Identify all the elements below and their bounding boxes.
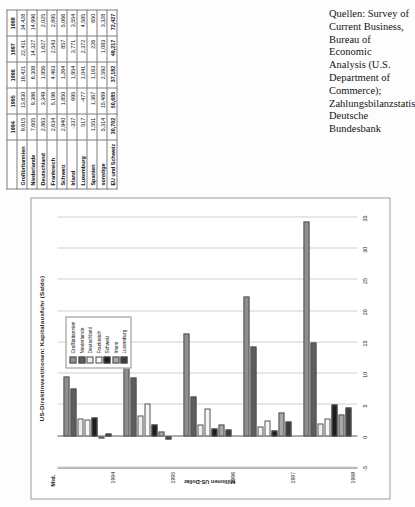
table-cell: 16,421 (17, 62, 27, 88)
table-row-header: Luxemburg (77, 140, 87, 189)
table-cell: 2,025 (37, 10, 47, 36)
chart-legend: GroßbritannienNiederlandeDeutschlandFran… (65, 316, 131, 368)
chart-y-tick-label: 35 (361, 215, 367, 221)
legend-swatch-icon (95, 356, 102, 363)
legend-swatch-icon (86, 356, 93, 363)
table-cell: 3,554 (67, 10, 77, 36)
chart-bar (130, 377, 136, 436)
table-cell: 22,411 (17, 36, 27, 62)
legend-item: Frankreich (95, 321, 102, 363)
chart-y-tick-label: 10 (361, 371, 367, 377)
table-cell: 2,634 (47, 114, 57, 140)
chart-bar-group: 1996 (177, 217, 237, 467)
table-cell: 2,863 (37, 114, 47, 140)
chart-bar (91, 417, 97, 435)
data-table: 19941995199619971998 Großbritannien9,615… (6, 9, 117, 189)
table-row-header: Frankreich (47, 140, 57, 189)
table-row-header: EU und Schweiz (107, 140, 117, 189)
table-column-header: 1995 (7, 88, 17, 114)
chart-bar (144, 403, 150, 435)
chart-x-tick-label: 1997 (289, 471, 295, 483)
table-row-header: Großbritannien (17, 140, 27, 189)
chart-bar (264, 420, 270, 436)
table-cell: 9,386 (27, 88, 37, 114)
table-header-row: 19941995199619971998 (7, 10, 17, 189)
table-cell: 2,543 (47, 36, 57, 62)
chart-y-tick-label: 25 (361, 278, 367, 284)
chart-bar (257, 426, 263, 436)
table-cell: 4,585 (77, 10, 87, 36)
table-row-header: Schweiz (57, 140, 67, 189)
table-cell: 695 (67, 88, 77, 114)
table-row-header: Irland (67, 140, 77, 189)
legend-swatch-icon (69, 356, 76, 363)
table-cell: 1,551 (87, 114, 97, 140)
table-row-header: Deutschland (37, 140, 47, 189)
table-cell: 13,830 (17, 88, 27, 114)
chart-bar (98, 436, 104, 438)
table-cell: 5,314 (97, 114, 107, 140)
table-cell: 1,083 (97, 36, 107, 62)
table-cell: 9,615 (17, 114, 27, 140)
table-cell: 72,427 (107, 10, 117, 36)
table-cell: 49,217 (107, 36, 117, 62)
legend-item: Großbritannien (69, 321, 76, 363)
chart-bar (278, 412, 284, 436)
chart-bar (151, 424, 157, 436)
table-cell: 1,954 (67, 62, 77, 88)
legend-item: Schweiz (103, 321, 110, 363)
table-corner-cell (7, 140, 17, 189)
chart-bar-group: 1997 (237, 217, 297, 467)
table-cell: 1,264 (57, 62, 67, 88)
chart-bar (165, 436, 171, 439)
table-cell: 4,463 (47, 62, 57, 88)
chart-x-tick-label: 1998 (349, 471, 355, 483)
source-note: Quellen: Survey of Current Business, Bur… (329, 8, 409, 136)
chart-y-tick-label: 30 (361, 246, 367, 252)
chart-y-tick-label: 20 (361, 309, 367, 315)
table-cell: 14,327 (27, 36, 37, 62)
legend-label: Irland (113, 341, 118, 353)
chart-y-tick-labels: 35302520151050-5 (359, 218, 375, 468)
table-cell: 2,940 (57, 114, 67, 140)
table-cell: 30,702 (107, 114, 117, 140)
table-cell: 2,372 (77, 36, 87, 62)
legend-label: Deutschland (87, 326, 92, 353)
table-row: Großbritannien9,61513,83016,42122,41134,… (17, 10, 27, 189)
chart-bar (338, 414, 344, 436)
chart-bar (70, 388, 76, 436)
table-cell: 3,771 (67, 36, 77, 62)
table-cell: -337 (67, 114, 77, 140)
table-cell: 7,605 (27, 114, 37, 140)
chart-bar (285, 421, 291, 436)
table-cell: 2,895 (47, 10, 57, 36)
chart-bar (63, 376, 69, 436)
chart-bar (243, 296, 249, 436)
chart-bar (324, 418, 330, 436)
chart-bar (137, 415, 143, 436)
table-cell: 3,328 (97, 10, 107, 36)
chart-bar (250, 346, 256, 436)
table-column-header: 1994 (7, 114, 17, 140)
chart-bar (271, 430, 277, 435)
chart-y-tick-label: -5 (361, 466, 367, 471)
table-row: sonstige5,31415,4892,5921,0833,328 (97, 10, 107, 189)
table-row: Frankreich2,6345,1964,4632,5432,895 (47, 10, 57, 189)
chart-bar (183, 333, 189, 436)
table-cell: 1,956 (37, 62, 47, 88)
chart-bar (190, 396, 196, 435)
chart-bar-group: 1998 (297, 217, 357, 467)
table-cell: 6,308 (27, 62, 37, 88)
chart-x-tick-label: 1996 (229, 471, 235, 483)
legend-item: Irland (112, 321, 119, 363)
table-cell: 14,996 (27, 10, 37, 36)
table-row: Spanien1,5511,3671,163226650 (87, 10, 97, 189)
page-canvas: US-Direktinvestitionen: Kapitalausfuhr (… (0, 0, 415, 507)
chart-bar (158, 431, 164, 435)
legend-label: Schweiz (104, 335, 109, 353)
table-row-header: sonstige (97, 140, 107, 189)
table-row-header: Niederlande (27, 140, 37, 189)
legend-label: Frankreich (96, 330, 101, 353)
table-cell: 3,349 (37, 88, 47, 114)
chart-bar (345, 407, 351, 436)
